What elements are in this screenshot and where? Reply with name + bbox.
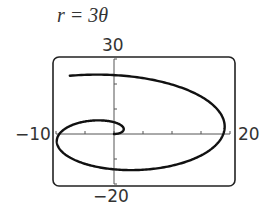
plot-area — [0, 0, 279, 211]
spiral-curve — [57, 75, 225, 170]
